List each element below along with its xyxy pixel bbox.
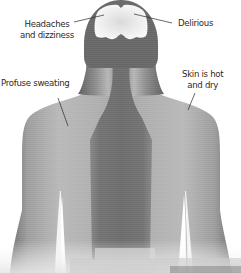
label-skin: Skin is hot and dry — [182, 69, 223, 91]
label-delirious-line1: Delirious — [178, 18, 213, 29]
brain-icon — [95, 5, 148, 39]
label-headaches: Headaches and dizziness — [20, 19, 74, 41]
label-sweating-line1: Profuse sweating — [1, 78, 70, 89]
heat-stroke-diagram: Headaches and dizziness Delirious Profus… — [0, 0, 241, 273]
label-sweating: Profuse sweating — [1, 78, 70, 89]
label-skin-line1: Skin is hot — [182, 69, 223, 80]
label-delirious: Delirious — [178, 18, 213, 29]
label-headaches-line2: and dizziness — [20, 30, 74, 41]
label-headaches-line1: Headaches — [20, 19, 74, 30]
label-skin-line2: and dry — [182, 80, 223, 91]
